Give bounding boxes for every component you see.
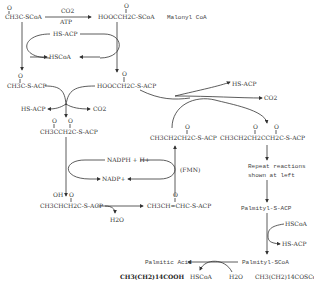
palmitic-acid-formula: CH3(CH2)14COOH — [120, 273, 184, 280]
svg-text:CH3CH2CH2CCH2C-S-ACP: CH3CH2CH2CCH2C-S-ACP — [220, 134, 305, 141]
hscoa-top-label: HSCoA — [49, 53, 72, 60]
svg-text:O: O — [173, 191, 178, 198]
svg-text:CH3C-S-ACP: CH3C-S-ACP — [7, 82, 47, 89]
svg-text:O: O — [7, 4, 12, 11]
co2-right-label: CO2 — [264, 94, 278, 101]
malonyl-coa-name: Malonyl CoA — [167, 14, 207, 21]
svg-text:O: O — [69, 191, 74, 198]
svg-text:CH3CH=CHC-S-ACP: CH3CH=CHC-S-ACP — [147, 202, 211, 209]
atp-label: ATP — [59, 18, 72, 25]
svg-text:O: O — [253, 123, 258, 130]
malonyl-coa-node: O HOOCCH2C-SCoA — [98, 2, 155, 20]
repeat-text-1: Repeat reactions — [248, 163, 306, 170]
svg-text:HOOCCH2C-S-ACP: HOOCCH2C-S-ACP — [97, 82, 156, 89]
hs-acp-bottom-label: HS-ACP — [282, 240, 307, 247]
fatty-acid-synthesis-diagram: O CH3C-SCoA CO2 ATP O HOOCCH2C-SCoA Malo… — [0, 0, 314, 291]
palmityl-acp-label: Palmityl-S-ACP — [241, 205, 292, 212]
repeat-text-2: shown at left — [248, 172, 295, 179]
hscoa-right-label: HSCoA — [285, 220, 308, 227]
fmn-label: (FMN) — [180, 166, 200, 173]
acetoacetyl-acp-node: O O CH3CCH2C-S-ACP — [40, 117, 98, 135]
svg-text:CH3CCH2C-S-ACP: CH3CCH2C-S-ACP — [40, 128, 98, 135]
hs-acp-right-label: HS-ACP — [232, 80, 257, 87]
h2o-mid-label: H2O — [110, 216, 124, 223]
acetyl-acp-node: O CH3C-S-ACP — [7, 72, 47, 89]
acetyl-coa-label: CH3C-SCoA — [5, 13, 43, 20]
hs-acp-mid-label: HS-ACP — [21, 105, 46, 112]
svg-text:O: O — [68, 117, 73, 124]
hscoa-bottom-label: HSCoA — [190, 273, 213, 280]
nadp-label: NADP+ — [102, 175, 125, 182]
palmityl-coa-label: Palmityl-SCoA — [242, 259, 289, 266]
butyryl-acp-node: O CH3CH2CH2C-S-ACP — [150, 123, 217, 141]
co2-label-top: CO2 — [61, 7, 75, 14]
svg-text:O: O — [18, 72, 23, 79]
acp-loop-left — [27, 34, 50, 58]
svg-text:O: O — [122, 70, 127, 77]
h2o-bottom-label: H2O — [229, 273, 243, 280]
svg-text:CH3CH2CH2C-S-ACP: CH3CH2CH2C-S-ACP — [150, 134, 217, 141]
palmitic-acid-label: Palmitic Acid — [145, 259, 192, 266]
malonyl-acp-node: O HOOCCH2C-S-ACP — [97, 70, 156, 89]
hs-acp-top-label: HS-ACP — [53, 30, 78, 37]
crotonyl-acp-node: O CH3CH=CHC-S-ACP — [147, 191, 211, 209]
svg-text:O: O — [274, 123, 279, 130]
svg-text:CH3CHCH2C-S-ACP: CH3CHCH2C-S-ACP — [40, 202, 103, 209]
acp-loop-right — [80, 34, 119, 58]
hydroxybutyryl-acp-node: OH O CH3CHCH2C-S-ACP — [40, 191, 103, 209]
svg-text:O: O — [52, 117, 57, 124]
co2-mid-label: CO2 — [93, 105, 107, 112]
svg-text:OH: OH — [53, 191, 63, 198]
nadph-label: NADPH + H+ — [107, 156, 150, 163]
malonyl-coa-formula: HOOCCH2C-SCoA — [98, 13, 155, 20]
ketohexanoyl-acp-node: O O CH3CH2CH2CCH2C-S-ACP — [220, 123, 305, 141]
svg-text:O: O — [185, 123, 190, 130]
svg-text:O: O — [124, 2, 129, 9]
acetyl-coa-node: O CH3C-SCoA — [5, 4, 43, 20]
palmityl-coa-formula: CH3(CH2)14COSCoA — [255, 273, 314, 280]
